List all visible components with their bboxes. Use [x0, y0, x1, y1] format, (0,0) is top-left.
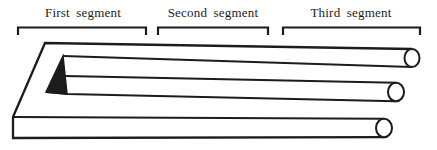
trident-line-front-face-top	[13, 117, 384, 119]
trident-line-middle-tube-top	[65, 76, 396, 83]
trident-line-top-tube-bottom	[63, 56, 412, 67]
impossible-trident-drawing	[0, 0, 437, 150]
figure-canvas: First segment Second segment Third segme…	[0, 0, 437, 150]
trident-line-middle-tube-bottom	[46, 92, 396, 101]
tube-opening-top	[405, 49, 420, 67]
tube-opening-middle	[388, 83, 404, 101]
bracket-third-segment	[283, 28, 420, 36]
bracket-second-segment	[158, 28, 268, 36]
notch-shadow-triangle	[46, 56, 67, 94]
bracket-first-segment	[18, 28, 146, 36]
tube-opening-bottom	[376, 119, 392, 137]
